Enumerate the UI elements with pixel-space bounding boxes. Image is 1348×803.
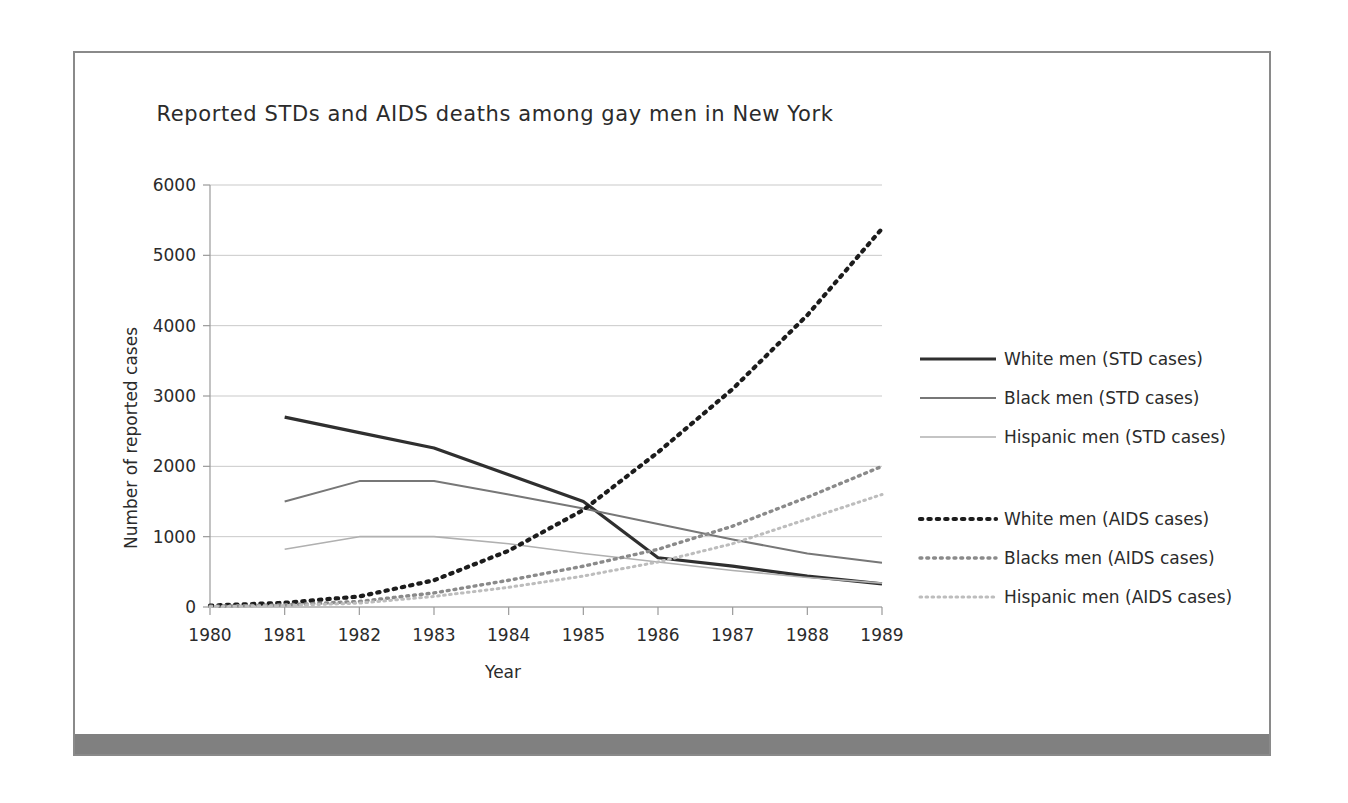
x-tick-label: 1985 bbox=[562, 625, 605, 645]
series-line bbox=[210, 494, 882, 606]
y-tick-label: 0 bbox=[185, 597, 196, 617]
x-tick-label: 1987 bbox=[711, 625, 754, 645]
x-tick-label: 1982 bbox=[338, 625, 381, 645]
x-tick-label: 1984 bbox=[487, 625, 530, 645]
series-line bbox=[285, 417, 882, 584]
chart-title: Reported STDs and AIDS deaths among gay … bbox=[157, 102, 834, 126]
gridlines bbox=[210, 185, 882, 607]
y-axis-ticks: 0100020003000400050006000 bbox=[153, 175, 210, 617]
legend-label: Hispanic men (STD cases) bbox=[1004, 427, 1226, 447]
y-tick-label: 3000 bbox=[153, 386, 196, 406]
line-chart: Reported STDs and AIDS deaths among gay … bbox=[75, 53, 1273, 738]
series-line bbox=[285, 481, 882, 563]
x-tick-label: 1986 bbox=[636, 625, 679, 645]
y-tick-label: 1000 bbox=[153, 527, 196, 547]
legend-label: White men (AIDS cases) bbox=[1004, 509, 1209, 529]
legend-label: Black men (STD cases) bbox=[1004, 388, 1199, 408]
y-tick-label: 2000 bbox=[153, 456, 196, 476]
legend-label: White men (STD cases) bbox=[1004, 349, 1203, 369]
legend-label: Hispanic men (AIDS cases) bbox=[1004, 587, 1232, 607]
page-canvas: Reported STDs and AIDS deaths among gay … bbox=[0, 0, 1348, 803]
y-tick-label: 4000 bbox=[153, 316, 196, 336]
chart-legend: White men (STD cases)Black men (STD case… bbox=[920, 349, 1232, 607]
x-tick-label: 1988 bbox=[786, 625, 829, 645]
figure-frame: Reported STDs and AIDS deaths among gay … bbox=[73, 51, 1271, 756]
y-tick-label: 5000 bbox=[153, 245, 196, 265]
x-tick-label: 1981 bbox=[263, 625, 306, 645]
x-tick-label: 1983 bbox=[412, 625, 455, 645]
x-tick-label: 1989 bbox=[860, 625, 903, 645]
y-axis-title: Number of reported cases bbox=[121, 327, 141, 549]
series-lines bbox=[210, 229, 882, 607]
chart-area: Reported STDs and AIDS deaths among gay … bbox=[75, 53, 1273, 738]
y-tick-label: 6000 bbox=[153, 175, 196, 195]
page-bottom-bar bbox=[75, 734, 1269, 754]
legend-label: Blacks men (AIDS cases) bbox=[1004, 548, 1215, 568]
x-tick-label: 1980 bbox=[188, 625, 231, 645]
x-axis-ticks: 1980198119821983198419851986198719881989 bbox=[188, 607, 903, 645]
x-axis-title: Year bbox=[484, 662, 521, 682]
